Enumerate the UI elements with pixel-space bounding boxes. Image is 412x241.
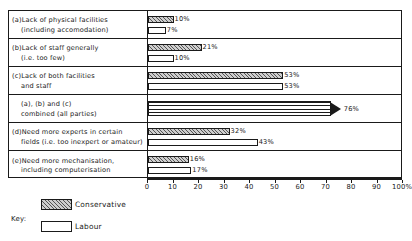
row-label-line1: (a)Lack of physical facilities: [12, 16, 145, 25]
bar-value-label: 43%: [259, 139, 274, 146]
bar-labour: [148, 167, 191, 174]
row-plot-area: 16% 17%: [148, 151, 401, 179]
row-plot-area: 76%: [148, 95, 401, 122]
legend-key-label: Key:: [11, 215, 26, 223]
row-label-line1: (d)Need more experts in certain: [12, 128, 145, 137]
chart-row: (d)Need more experts in certain fields (…: [9, 123, 401, 151]
x-axis-tick-label: 50: [270, 183, 279, 191]
bar-value-label: 32%: [231, 128, 246, 135]
bar-labour: [148, 83, 283, 90]
x-axis-tick-label: 30: [219, 183, 228, 191]
row-label-line1: (e)Need more mechanisation,: [12, 157, 145, 166]
bar-labour: [148, 55, 174, 62]
legend-item-conservative: Conservative: [41, 199, 126, 210]
bar-value-label: 21%: [203, 44, 218, 51]
row-plot-area: 21% 10%: [148, 39, 401, 66]
bar-value-label: 10%: [175, 55, 190, 62]
bar-value-label: 16%: [190, 156, 205, 163]
bar-chart: (a)Lack of physical facilities (includin…: [8, 10, 402, 178]
bar-group-labour: 43%: [148, 139, 274, 146]
bar-group-labour: 10%: [148, 55, 190, 62]
bar-conservative: [148, 128, 230, 135]
bar-group-conservative: 10%: [148, 16, 190, 23]
row-label-b: (b)Lack of staff generally (i.e. too few…: [9, 39, 148, 66]
row-label-line1: (c)Lack of both facilities: [12, 72, 145, 81]
bar-group-conservative: 32%: [148, 128, 246, 135]
bar-combined: [148, 101, 331, 116]
x-axis-tick-label: 20: [193, 183, 202, 191]
x-axis-tick-label: 0: [145, 183, 150, 191]
row-label-d: (d)Need more experts in certain fields (…: [9, 123, 148, 150]
row-plot-area: 32% 43%: [148, 123, 401, 150]
bar-conservative: [148, 16, 174, 23]
chart-row: (c)Lack of both facilities and staff 53%…: [9, 67, 401, 95]
bar-value-label: 17%: [192, 167, 207, 174]
bar-conservative: [148, 44, 202, 51]
row-label-line2: and staff: [12, 82, 145, 91]
legend-label-labour: Labour: [75, 222, 102, 231]
row-label-line2: including computerisation: [12, 166, 145, 175]
row-label-c: (c)Lack of both facilities and staff: [9, 67, 148, 94]
bar-conservative: [148, 72, 283, 79]
chart-row: (e)Need more mechanisation, including co…: [9, 151, 401, 179]
row-label-e: (e)Need more mechanisation, including co…: [9, 151, 148, 179]
x-axis-tick-label: 70: [321, 183, 330, 191]
bar-group-conservative: 16%: [148, 156, 205, 163]
row-label-line2: (including accomodation): [12, 26, 145, 35]
bar-value-label: 53%: [284, 72, 299, 79]
bar-value-label: 10%: [175, 16, 190, 23]
x-axis-tick-label: 10: [168, 183, 177, 191]
legend-item-labour: Labour: [41, 221, 102, 232]
bar-group-combined: 76%: [148, 101, 359, 116]
row-label-line1: (b)Lack of staff generally: [12, 44, 145, 53]
chart-row: (a)Lack of physical facilities (includin…: [9, 11, 401, 39]
x-axis-tick-label: 60: [295, 183, 304, 191]
x-axis-tick-label: 90: [372, 183, 381, 191]
row-label-a: (a)Lack of physical facilities (includin…: [9, 11, 148, 38]
row-label-line2: combined (all parties): [12, 110, 145, 119]
bar-group-labour: 17%: [148, 167, 208, 174]
x-axis-tick-label: 40: [244, 183, 253, 191]
bar-conservative: [148, 156, 189, 163]
arrow-right-icon: [330, 102, 341, 116]
legend-swatch-labour: [41, 221, 72, 232]
legend-swatch-conservative: [41, 199, 72, 210]
bar-labour: [148, 27, 166, 34]
row-plot-area: 10% 7%: [148, 11, 401, 38]
bar-group-conservative: 21%: [148, 44, 218, 51]
chart-row: (b)Lack of staff generally (i.e. too few…: [9, 39, 401, 67]
bar-value-label: 7%: [167, 27, 178, 34]
chart-legend: Key: Conservative Labour: [8, 198, 208, 240]
bar-value-label: 53%: [284, 83, 299, 90]
row-label-line1: (a), (b) and (c): [12, 100, 145, 109]
row-label-line2: (i.e. too few): [12, 54, 145, 63]
x-axis: 0102030405060708090100%: [147, 178, 402, 194]
x-axis-tick-label: 80: [346, 183, 355, 191]
row-label-line2: fields (i.e. too inexpert or amateur): [12, 138, 145, 147]
bar-value-label: 76%: [344, 105, 359, 113]
bar-labour: [148, 139, 258, 146]
row-label-combined: (a), (b) and (c) combined (all parties): [9, 95, 148, 122]
x-axis-tick-label: 100%: [392, 183, 412, 191]
row-plot-area: 53% 53%: [148, 67, 401, 94]
bar-group-labour: 7%: [148, 27, 178, 34]
bar-group-conservative: 53%: [148, 72, 299, 79]
chart-row-combined: (a), (b) and (c) combined (all parties) …: [9, 95, 401, 123]
bar-group-labour: 53%: [148, 83, 299, 90]
legend-label-conservative: Conservative: [75, 200, 126, 209]
